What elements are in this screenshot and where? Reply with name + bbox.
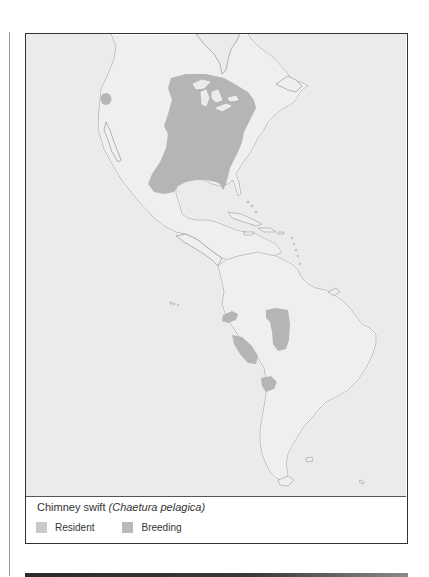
legend-label-resident: Resident [55,522,94,533]
page-margin-rule [9,32,10,576]
next-section-header-bar [25,573,408,577]
map-caption: Chimney swift (Chaetura pelagica) Reside… [26,497,406,543]
species-scientific-name: (Chaetura pelagica) [109,501,206,513]
range-map [26,34,406,497]
breeding-swatch-icon [122,522,133,533]
range-map-figure: Chimney swift (Chaetura pelagica) Reside… [25,33,408,544]
americas-map-svg [26,34,406,496]
species-title: Chimney swift (Chaetura pelagica) [37,501,205,513]
legend-item-resident: Resident [36,522,94,533]
legend-item-breeding: Breeding [122,522,181,533]
galapagos-islands [170,302,179,306]
falkland-islands [306,457,364,484]
resident-swatch-icon [36,522,47,533]
legend-label-breeding: Breeding [141,522,181,533]
map-legend: Resident Breeding [36,522,210,533]
south-america-land [218,252,376,482]
species-common-name: Chimney swift [37,501,105,513]
breeding-range-west-coast-patch [101,93,112,105]
